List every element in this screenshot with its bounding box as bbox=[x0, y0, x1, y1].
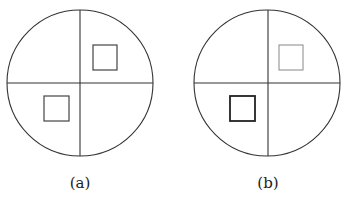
panel-a: (a) bbox=[7, 10, 153, 192]
square-a-upper-right bbox=[93, 45, 117, 70]
label-a: (a) bbox=[70, 174, 91, 192]
panel-b: (b) bbox=[194, 10, 340, 192]
figure-canvas: (a) (b) bbox=[0, 0, 347, 198]
label-b: (b) bbox=[257, 174, 278, 192]
square-a-lower-left bbox=[44, 96, 69, 121]
square-b-upper-right bbox=[279, 45, 303, 70]
square-b-lower-left bbox=[230, 96, 255, 121]
